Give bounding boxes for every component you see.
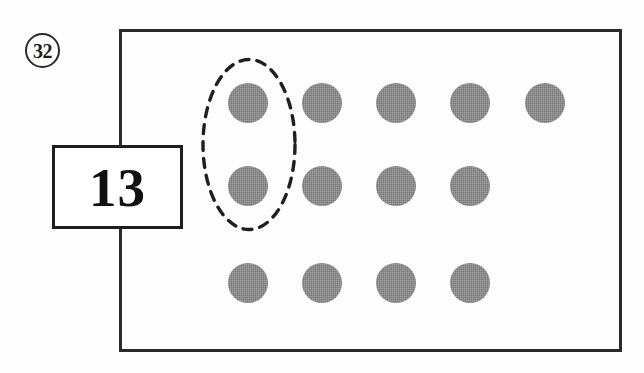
dot-r3-c2 xyxy=(302,263,342,303)
dot-r1-c4 xyxy=(450,83,490,123)
dot-r1-c3 xyxy=(376,83,416,123)
dot-r1-c5 xyxy=(525,83,565,123)
dot-r2-c2 xyxy=(302,166,342,206)
dot-r2-c4 xyxy=(450,166,490,206)
figure-frame xyxy=(119,29,622,352)
selection-ellipse xyxy=(200,56,298,233)
selection-ellipse-outline xyxy=(203,60,295,230)
dot-r3-c4 xyxy=(450,263,490,303)
dot-r2-c3 xyxy=(376,166,416,206)
figure-canvas: 32 13 xyxy=(0,0,644,373)
count-callout-box: 13 xyxy=(52,145,183,229)
dot-r3-c3 xyxy=(376,263,416,303)
figure-number-text: 32 xyxy=(33,41,52,61)
figure-number-badge: 32 xyxy=(25,33,60,68)
dot-r1-c2 xyxy=(302,83,342,123)
count-value: 13 xyxy=(89,160,146,215)
dot-r3-c1 xyxy=(228,263,268,303)
